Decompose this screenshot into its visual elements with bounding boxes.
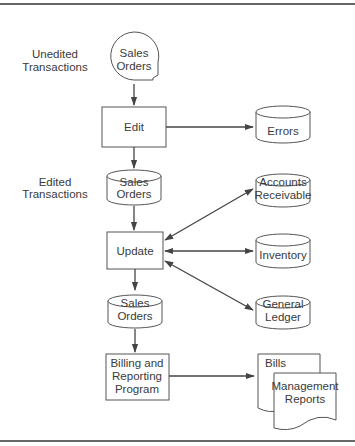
svg-text:Reporting: Reporting bbox=[112, 370, 162, 382]
svg-text:Accounts: Accounts bbox=[259, 176, 307, 188]
svg-text:Program: Program bbox=[115, 383, 159, 395]
svg-text:Sales: Sales bbox=[120, 176, 149, 188]
errors-storage-node: Errors bbox=[256, 106, 310, 143]
svg-text:Orders: Orders bbox=[116, 60, 151, 72]
label-unedited-transactions: Unedited Transactions bbox=[22, 48, 88, 73]
svg-text:Transactions: Transactions bbox=[22, 188, 88, 200]
edit-process-node: Edit bbox=[102, 107, 166, 147]
update-process-node: Update bbox=[107, 232, 163, 269]
svg-text:Edited: Edited bbox=[39, 176, 72, 188]
svg-text:Update: Update bbox=[116, 245, 153, 257]
svg-text:General: General bbox=[263, 298, 304, 310]
sales-orders-updated-storage-node: Sales Orders bbox=[108, 295, 162, 328]
svg-text:Receivable: Receivable bbox=[255, 189, 312, 201]
svg-text:Ledger: Ledger bbox=[265, 311, 301, 323]
inventory-storage-node: Inventory bbox=[256, 234, 310, 268]
arrow-update-general-ledger bbox=[165, 261, 253, 310]
svg-text:Edit: Edit bbox=[124, 121, 145, 133]
sales-orders-edited-storage-node: Sales Orders bbox=[107, 170, 161, 205]
svg-text:Orders: Orders bbox=[116, 188, 151, 200]
accounts-receivable-storage-node: Accounts Receivable bbox=[255, 174, 312, 207]
svg-text:Inventory: Inventory bbox=[259, 249, 307, 261]
arrow-update-accounts-receivable bbox=[165, 189, 253, 240]
svg-text:Unedited: Unedited bbox=[32, 48, 78, 60]
sales-orders-input-node: Sales Orders bbox=[111, 32, 159, 80]
svg-text:Orders: Orders bbox=[117, 310, 152, 322]
system-flowchart: Unedited Transactions Edited Transaction… bbox=[0, 0, 355, 446]
svg-text:Sales: Sales bbox=[121, 297, 150, 309]
svg-text:Transactions: Transactions bbox=[22, 61, 88, 73]
svg-text:Errors: Errors bbox=[267, 125, 299, 137]
svg-text:Reports: Reports bbox=[285, 393, 326, 405]
label-edited-transactions: Edited Transactions bbox=[22, 176, 88, 200]
billing-reporting-process-node: Billing and Reporting Program bbox=[106, 354, 169, 400]
svg-text:Billing and: Billing and bbox=[110, 357, 163, 369]
general-ledger-storage-node: General Ledger bbox=[256, 296, 310, 329]
svg-text:Sales: Sales bbox=[120, 47, 149, 59]
svg-text:Management: Management bbox=[271, 380, 339, 392]
management-reports-document-node: Management Reports bbox=[271, 373, 339, 430]
svg-text:Bills: Bills bbox=[265, 357, 286, 369]
